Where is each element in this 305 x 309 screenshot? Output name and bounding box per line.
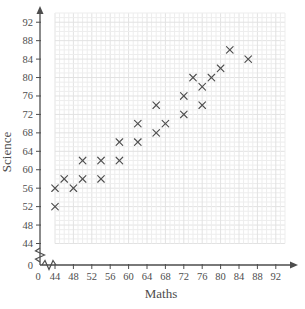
y-tick-label: 56 — [23, 183, 34, 194]
x-tick-label: 68 — [160, 271, 171, 282]
x-tick-label: 72 — [179, 271, 190, 282]
y-tick-label: 64 — [23, 146, 34, 157]
x-tick-label: 84 — [234, 271, 245, 282]
x-tick-label: 76 — [197, 271, 208, 282]
y-tick-label: 76 — [23, 90, 34, 101]
grid-lines — [55, 13, 285, 244]
x-tick-label: 44 — [50, 271, 61, 282]
y-tick-label: 88 — [23, 35, 34, 46]
y-axis-title: Science — [0, 132, 14, 173]
x-axis-arrow-icon — [290, 262, 298, 269]
scatter-plot: 4448525660646872768084889244485256606468… — [0, 0, 305, 309]
y-tick-label: 52 — [23, 201, 34, 212]
x-origin-label: 0 — [35, 271, 40, 282]
y-axis-arrow-icon — [37, 6, 44, 14]
x-tick-label: 64 — [142, 271, 153, 282]
x-tick-label: 56 — [105, 271, 116, 282]
y-tick-label: 84 — [23, 54, 34, 65]
y-tick-label: 48 — [23, 220, 34, 231]
scatter-plot-figure: 4448525660646872768084889244485256606468… — [0, 0, 305, 309]
x-axis-title: Maths — [145, 286, 178, 301]
x-tick-label: 60 — [123, 271, 134, 282]
x-tick-label: 52 — [87, 271, 98, 282]
y-tick-label: 60 — [23, 164, 34, 175]
y-origin-label: 0 — [28, 260, 33, 271]
x-tick-label: 48 — [68, 271, 79, 282]
y-tick-label: 68 — [23, 127, 34, 138]
x-tick-label: 80 — [215, 271, 226, 282]
x-tick-label: 88 — [252, 271, 263, 282]
y-tick-label: 44 — [23, 238, 34, 249]
x-tick-label: 92 — [271, 271, 282, 282]
y-tick-label: 80 — [23, 72, 34, 83]
y-tick-label: 92 — [23, 17, 34, 28]
y-tick-label: 72 — [23, 109, 34, 120]
